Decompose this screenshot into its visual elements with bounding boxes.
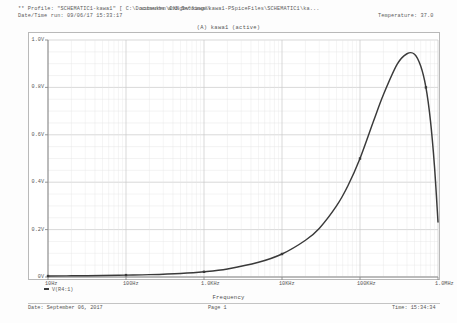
footer-time: Time: 15:34:34: [392, 305, 436, 311]
legend-color-swatch: [44, 288, 49, 290]
pspice-probe-plot-page: ** Profile: "SCHEMATIC1-kawa1" [ C:\Docu…: [0, 0, 457, 323]
chart-trace-layer: [48, 40, 438, 277]
chart-trace: [48, 53, 438, 276]
x-axis-tick-label: 1.0MHz: [435, 281, 454, 287]
x-axis-tick-label: 1.0KHz: [201, 281, 220, 287]
legend-label: V(R4:1): [52, 287, 73, 293]
y-axis-tick-label: 0.2V: [10, 227, 44, 233]
header-temperature: Temperature: 37.0: [378, 13, 433, 20]
plot-title: (A) kawa1 (active): [0, 25, 457, 31]
x-axis-label: Frequency: [0, 294, 457, 301]
chart-data-point: [125, 274, 127, 276]
header-datetime-run: Date/Time run: 09/06/17 15:33:17: [18, 13, 122, 20]
footer-page: Page 1: [208, 305, 227, 311]
chart-data-point: [281, 253, 283, 255]
header-path-line: sotsuken\IXNgbv\kawa\kawa1-PSpiceFiles\S…: [140, 6, 319, 13]
plot-area: [48, 40, 438, 277]
x-axis-tick-label: 100Hz: [123, 281, 139, 287]
footer-date: Date: September 06, 2017: [28, 305, 103, 311]
y-axis-tick-label: 0.8V: [10, 84, 44, 90]
footer-divider: [28, 303, 440, 304]
chart-data-point: [425, 86, 427, 88]
chart-data-point: [359, 157, 361, 159]
y-axis-tick-label: 0V: [10, 274, 44, 280]
y-axis-tick-label: 1.0V: [10, 37, 44, 43]
chart-data-point: [47, 275, 49, 277]
y-axis-tick-label: 0.4V: [10, 179, 44, 185]
chart-data-point: [203, 271, 205, 273]
chart-legend[interactable]: V(R4:1): [44, 287, 73, 293]
x-axis-tick-label: 100KHz: [357, 281, 376, 287]
x-axis-tick-label: 10KHz: [279, 281, 295, 287]
y-axis-tick-label: 0.6V: [10, 132, 44, 138]
